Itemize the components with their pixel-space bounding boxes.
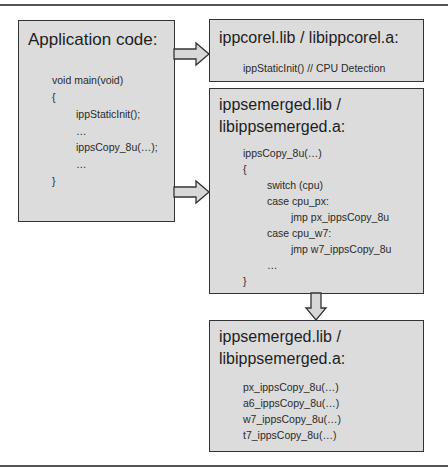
ippsemerged-impl-title-line2: libippsemerged.a: [219, 348, 345, 370]
code-line: { [52, 89, 56, 107]
code-line: ippsCopy_8u(…); [76, 139, 158, 157]
code-line: w7_ippsCopy_8u(…) [243, 411, 341, 429]
code-line: ippsCopy_8u(…) [243, 145, 322, 163]
code-line: ippStaticInit(); [76, 106, 140, 124]
code-line: px_ippsCopy_8u(…) [243, 379, 339, 397]
down-arrow-icon [305, 293, 327, 321]
application-code-box: Application code: void main(void) { ippS… [18, 20, 175, 222]
ippcorel-box: ippcorel.lib / libippcorel.a: ippStaticI… [209, 19, 424, 82]
right-arrow-icon [174, 43, 210, 65]
code-line: a6_ippsCopy_8u(…) [243, 395, 339, 413]
code-line: t7_ippsCopy_8u(…) [243, 427, 336, 445]
code-line: jmp w7_ippsCopy_8u [291, 241, 391, 259]
ippsemerged-impl-title-line1: ippsemerged.lib / [219, 326, 341, 348]
code-line: switch (cpu) [267, 177, 323, 195]
ippsemerged-impl-box: ippsemerged.lib / libippsemerged.a: px_i… [209, 320, 424, 452]
ippsemerged-dispatch-box: ippsemerged.lib / libippsemerged.a: ipps… [209, 88, 424, 294]
ippsemerged-title-line2: libippsemerged.a: [219, 116, 345, 138]
bottom-rule [0, 465, 448, 467]
code-line: void main(void) [52, 72, 123, 90]
code-line: … [76, 156, 87, 174]
code-line: … [76, 123, 87, 141]
code-line: … [267, 257, 278, 275]
code-line: case cpu_w7: [267, 225, 331, 243]
code-line: } [52, 173, 56, 191]
ippsemerged-title-line1: ippsemerged.lib / [219, 94, 341, 116]
code-line: jmp px_ippsCopy_8u [291, 209, 389, 227]
application-code-title: Application code: [28, 29, 157, 51]
top-rule [0, 4, 448, 6]
code-line: case cpu_px: [267, 193, 329, 211]
code-line: ippStaticInit() // CPU Detection [243, 60, 385, 78]
right-arrow-icon [174, 181, 210, 203]
code-line: } [243, 273, 247, 291]
code-line: { [243, 161, 247, 179]
ippcorel-title: ippcorel.lib / libippcorel.a: [219, 27, 399, 49]
